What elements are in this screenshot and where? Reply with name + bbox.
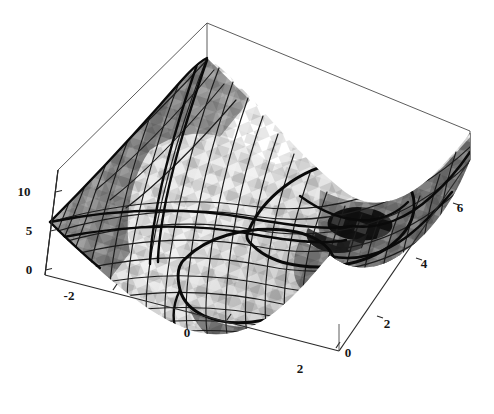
- y-tick-label-0: 0: [345, 345, 352, 360]
- plot-canvas: 10 5 0 -2 0 2 0 2 4 6: [0, 0, 494, 414]
- surface-mesh: [0, 0, 494, 414]
- x-tick-label-0: 0: [184, 325, 191, 340]
- x-tick-label-2: 2: [297, 361, 304, 376]
- y-tick-label-2: 2: [384, 316, 391, 331]
- z-tick-label-5: 5: [26, 223, 33, 238]
- y-tick-2: [377, 316, 383, 318]
- y-tick-label-4: 4: [421, 256, 428, 271]
- z-tick-label-10: 10: [18, 184, 31, 199]
- x-tick-label-neg2: -2: [64, 288, 75, 303]
- y-tick-label-6: 6: [457, 200, 464, 215]
- z-tick-10: [56, 191, 63, 193]
- z-tick-label-0: 0: [26, 262, 33, 277]
- surface-plot-figure: 10 5 0 -2 0 2 0 2 4 6: [0, 0, 494, 414]
- x-tick-neg2: [113, 284, 117, 290]
- z-tick-0: [46, 269, 53, 271]
- z-tick-5: [51, 230, 58, 232]
